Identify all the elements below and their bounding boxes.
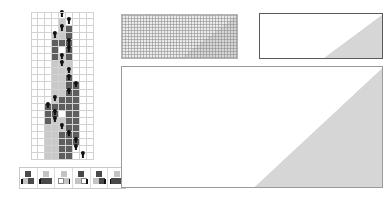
evolution-cell [59, 132, 66, 139]
evolution-cell [59, 40, 66, 47]
evolution-cell [80, 111, 87, 118]
rule-cell-top [78, 171, 84, 177]
evolution-cell [52, 47, 59, 54]
evolution-cell [31, 40, 38, 47]
evolution-cell [87, 12, 94, 19]
evolution-cell [31, 61, 38, 68]
rule-head-tick [86, 179, 88, 184]
evolution-cell [66, 47, 73, 54]
evolution-cell [52, 40, 59, 47]
evolution-cell [38, 146, 45, 153]
evolution-cell [73, 153, 80, 160]
evolution-cell [45, 12, 52, 19]
evolution-cell [73, 40, 80, 47]
evolution-cell [73, 125, 80, 132]
evolution-cell [87, 153, 94, 160]
evolution-cell [80, 153, 87, 160]
rule-box[interactable] [55, 168, 73, 188]
rule-icon [40, 171, 52, 185]
rule-cell-top [43, 171, 49, 177]
figure-root [0, 0, 392, 198]
machine-head-marker [75, 146, 77, 150]
rule-cell-right [28, 178, 34, 184]
evolution-cell [52, 153, 59, 160]
evolution-cell [38, 118, 45, 125]
evolution-cell [52, 146, 59, 153]
rule-box[interactable] [38, 168, 56, 188]
evolution-cell [59, 111, 66, 118]
evolution-cell [59, 125, 66, 132]
evolution-cell [31, 132, 38, 139]
evolution-cell [52, 125, 59, 132]
evolution-cell [45, 153, 52, 160]
machine-head-marker [54, 97, 56, 101]
evolution-cell [59, 104, 66, 111]
evolution-cell [52, 68, 59, 75]
evolution-cell [59, 97, 66, 104]
evolution-cell [87, 47, 94, 54]
evolution-cell [59, 26, 66, 33]
rule-box[interactable] [20, 168, 38, 188]
evolution-cell [59, 33, 66, 40]
evolution-cell [31, 97, 38, 104]
panel-evolution [31, 12, 94, 160]
evolution-cell [87, 19, 94, 26]
evolution-cell [87, 118, 94, 125]
evolution-cell [80, 40, 87, 47]
evolution-cell [38, 125, 45, 132]
evolution-cell [38, 12, 45, 19]
evolution-cell [87, 139, 94, 146]
evolution-cell [45, 118, 52, 125]
rule-box[interactable] [73, 168, 91, 188]
evolution-cell [73, 61, 80, 68]
evolution-cell [66, 90, 73, 97]
evolution-cell [80, 139, 87, 146]
evolution-cell [52, 12, 59, 19]
evolution-cell [87, 97, 94, 104]
evolution-cell [87, 125, 94, 132]
rule-icon [22, 171, 34, 185]
evolution-cell [45, 33, 52, 40]
evolution-cell [80, 104, 87, 111]
evolution-cell [31, 75, 38, 82]
rule-cell-top [61, 171, 67, 177]
evolution-cell [73, 146, 80, 153]
evolution-cell [73, 33, 80, 40]
machine-head-marker [54, 111, 56, 115]
evolution-cell [38, 97, 45, 104]
evolution-cell [45, 26, 52, 33]
evolution-cell [87, 75, 94, 82]
rule-cell-top [114, 171, 120, 177]
evolution-cell [38, 111, 45, 118]
evolution-cell [73, 54, 80, 61]
machine-head-marker [75, 83, 77, 87]
evolution-cell [31, 68, 38, 75]
machine-head-marker [68, 90, 70, 94]
evolution-cell [59, 90, 66, 97]
evolution-cell [31, 153, 38, 160]
ca-large-canvas [122, 67, 383, 188]
evolution-cell [73, 19, 80, 26]
machine-head-marker [61, 62, 63, 66]
evolution-cell [87, 104, 94, 111]
rule-icon [75, 171, 87, 185]
evolution-cell [38, 47, 45, 54]
evolution-cell [38, 68, 45, 75]
machine-head-marker [68, 19, 70, 23]
machine-head-marker [61, 55, 63, 59]
evolution-cell [38, 40, 45, 47]
evolution-cell [38, 132, 45, 139]
evolution-cell [80, 82, 87, 89]
machine-head-marker [68, 76, 70, 80]
evolution-cell [66, 111, 73, 118]
evolution-cell [45, 75, 52, 82]
evolution-cell [66, 75, 73, 82]
evolution-cell [66, 132, 73, 139]
rule-box[interactable] [91, 168, 109, 188]
evolution-cell [59, 75, 66, 82]
evolution-cell [52, 19, 59, 26]
evolution-cell [45, 68, 52, 75]
evolution-cell [31, 26, 38, 33]
evolution-cell [80, 47, 87, 54]
evolution-cell [73, 82, 80, 89]
